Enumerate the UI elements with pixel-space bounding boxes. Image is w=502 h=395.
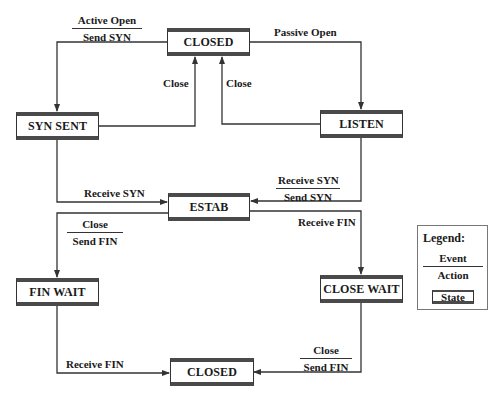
state-estab: ESTAB [168, 193, 250, 221]
action-text: Send FIN [67, 233, 123, 248]
label-close-send-fin-left: Close Send FIN [67, 217, 123, 248]
event-text: Close [226, 77, 252, 89]
state-label: CLOSED [187, 365, 237, 380]
state-label: ESTAB [190, 200, 229, 215]
transition-arrows [0, 0, 502, 395]
label-receive-syn-send-syn: Receive SYN Send SYN [276, 173, 340, 204]
state-close-wait: CLOSE WAIT [320, 275, 403, 303]
event-text: Receive FIN [66, 358, 124, 370]
event-text: Passive Open [274, 26, 337, 38]
state-closed-bottom: CLOSED [170, 358, 254, 386]
label-close-send-fin-right: Close Send FIN [300, 343, 352, 374]
action-text: Send FIN [300, 359, 352, 374]
state-label: SYN SENT [28, 119, 87, 134]
legend-state-sample: State [432, 290, 474, 304]
legend-action: Action [423, 267, 483, 282]
event-text: Receive SYN [84, 187, 145, 199]
legend-event-action: Event Action [423, 251, 483, 282]
label-close-listen: Close [226, 76, 252, 90]
state-label: LISTEN [339, 117, 384, 132]
action-text: Send SYN [72, 29, 142, 44]
state-label: CLOSE WAIT [323, 282, 399, 297]
state-label: FIN WAIT [29, 285, 85, 300]
event-text: Close [163, 77, 189, 89]
legend-state: State [441, 291, 465, 303]
action-text: Send SYN [276, 189, 340, 204]
label-receive-fin-finwait: Receive FIN [66, 357, 124, 371]
event-text: Close [300, 343, 352, 359]
legend-event: Event [423, 251, 483, 267]
label-close-syn-sent: Close [163, 76, 189, 90]
state-syn-sent: SYN SENT [16, 112, 99, 140]
state-closed-top: CLOSED [167, 28, 250, 56]
legend-box: Legend: Event Action State [417, 225, 488, 310]
event-text: Active Open [72, 13, 142, 29]
state-fin-wait: FIN WAIT [16, 278, 99, 306]
label-receive-fin-estab: Receive FIN [298, 215, 356, 229]
event-text: Close [67, 217, 123, 233]
state-listen: LISTEN [320, 110, 403, 138]
event-text: Receive SYN [276, 173, 340, 189]
legend-title: Legend: [423, 231, 465, 246]
state-label: CLOSED [184, 35, 234, 50]
label-passive-open: Passive Open [274, 25, 337, 39]
event-text: Receive FIN [298, 216, 356, 228]
label-active-open: Active Open Send SYN [72, 13, 142, 44]
label-receive-syn: Receive SYN [84, 186, 145, 200]
